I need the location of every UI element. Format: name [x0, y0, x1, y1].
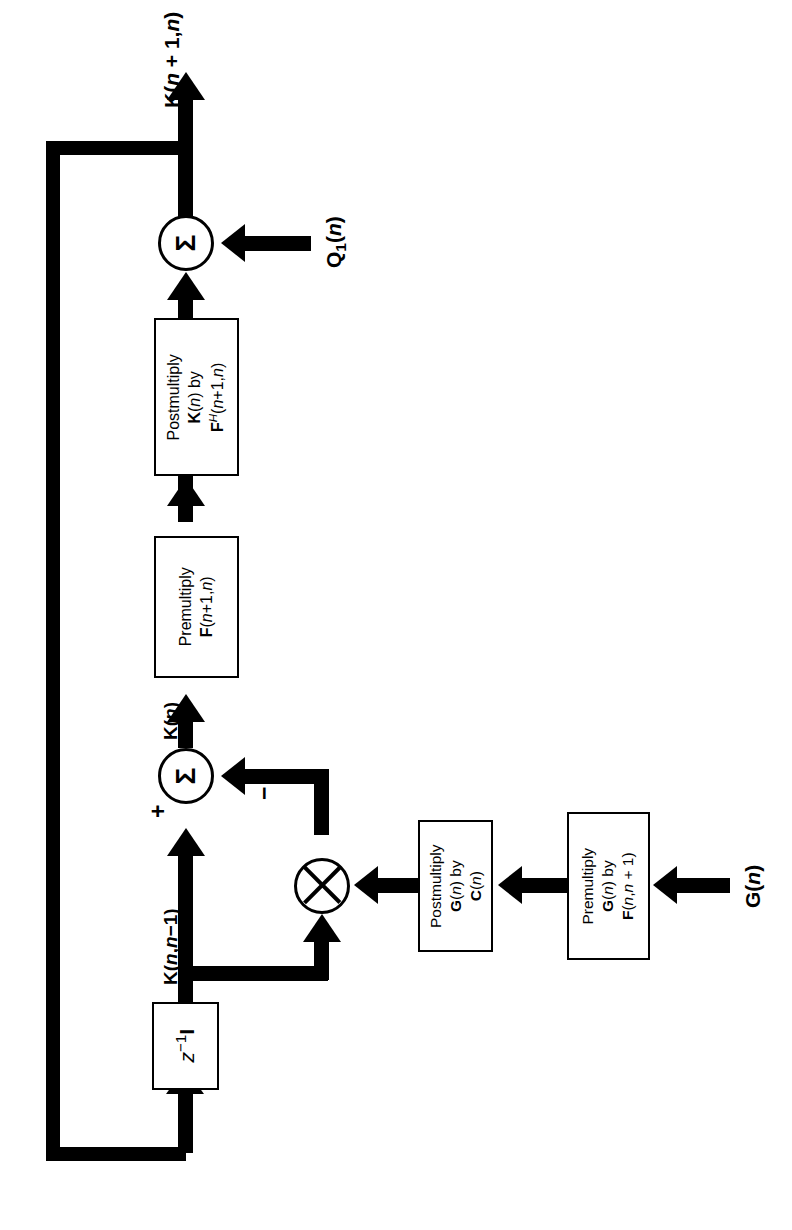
- premultiply-g-block-portrait: Premultiply G(n) by F(n,n + 1): [567, 812, 650, 960]
- signal-label-kn: K(n): [160, 702, 182, 740]
- wire-q1-input: [243, 236, 311, 251]
- multiplier-node-portrait: [294, 858, 350, 914]
- premultiply-g-line1: Premultiply: [578, 848, 598, 925]
- summing-junction-top: Σ: [158, 215, 214, 271]
- postmultiply-g-text: Postmultiply G(n) by C(n): [425, 844, 485, 928]
- arrowhead-minus-input: [221, 757, 245, 795]
- wire-branch-horizontal: [178, 966, 328, 981]
- wire-sumtop-feed: [178, 294, 193, 320]
- arrowhead-q1-input: [221, 224, 245, 262]
- wire-minus-input-vertical: [314, 769, 329, 835]
- diagram-portrait: K(n + 1,n) Σ Q1(n) Postmultiply K(n) by …: [0, 0, 792, 1230]
- figure-page: Premultiply G(n) by F(n,n + 1) Postmulti…: [0, 0, 792, 1230]
- premultiply-g-line3: F(n,n + 1): [619, 848, 639, 925]
- postmultiply-k-text: Postmultiply K(n) by FH(n+1,n): [164, 354, 229, 440]
- postmultiply-g-line1: Postmultiply: [425, 844, 445, 928]
- postmultiply-g-line2: G(n) by: [445, 844, 465, 928]
- postmultiply-k-line2: K(n) by: [185, 354, 206, 440]
- arrowhead-into-postmultg: [498, 866, 522, 904]
- premultiply-f-block-portrait: Premultiply F(n+1,n): [154, 536, 239, 678]
- premultiply-f-line2: F(n+1,n): [197, 567, 218, 646]
- summing-junction-middle-glyph: Σ: [170, 768, 202, 785]
- unit-delay-block-portrait: z−1I: [152, 1002, 219, 1090]
- premultiply-f-line1: Premultiply: [176, 567, 197, 646]
- wire-feedback-left: [46, 141, 60, 1161]
- unit-delay-label: z−1I: [172, 1029, 200, 1063]
- arrowhead-into-multiplier: [354, 866, 378, 904]
- wire-postmultg-to-multiplier: [375, 878, 421, 893]
- postmultiply-k-block: Postmultiply K(n) by FH(n+1,n): [154, 318, 239, 476]
- wire-feedback-riser: [178, 1090, 193, 1153]
- premultiply-f-text: Premultiply F(n+1,n): [176, 567, 218, 646]
- premultiply-g-line2: G(n) by: [598, 848, 618, 925]
- arrowhead-into-postmultk: [167, 478, 205, 506]
- postmultiply-g-line3: C(n): [466, 844, 486, 928]
- wire-premultg-to-postmultg: [521, 878, 571, 893]
- postmultiply-k-line3: FH(n+1,n): [206, 354, 229, 440]
- arrowhead-branch-into-multiplier: [303, 914, 341, 942]
- wire-feedback-top: [46, 141, 186, 155]
- sign-minus: −: [253, 787, 276, 800]
- arrowhead-gn-input: [653, 866, 677, 904]
- summing-junction-top-glyph: Σ: [170, 235, 202, 252]
- arrowhead-plus-input: [167, 828, 205, 856]
- wire-delay-to-branch: [178, 966, 193, 1002]
- signal-label-output: K(n + 1,n): [160, 12, 184, 108]
- sign-plus: +: [147, 805, 170, 818]
- wire-gn-input: [675, 878, 730, 893]
- postmultiply-g-block-portrait: Postmultiply G(n) by C(n): [418, 820, 493, 952]
- premultiply-g-text: Premultiply G(n) by F(n,n + 1): [578, 848, 638, 925]
- postmultiply-k-line1: Postmultiply: [164, 354, 185, 440]
- wire-feedback-bottom: [46, 1147, 186, 1161]
- signal-label-gn: G(n): [741, 865, 765, 908]
- signal-label-q1: Q1(n): [322, 216, 350, 268]
- summing-junction-middle-portrait: Σ: [158, 748, 214, 804]
